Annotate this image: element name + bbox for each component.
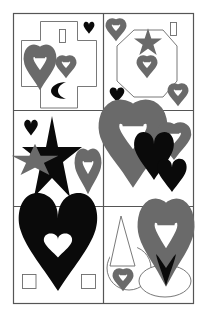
heart-outline-center-icon	[140, 58, 155, 73]
rectangle-outline	[60, 30, 66, 43]
heart-outline-bottom-right-icon	[171, 86, 186, 101]
heart-outline-large-icon	[28, 51, 51, 80]
square-outline-left	[23, 275, 37, 289]
panel-6	[107, 211, 191, 297]
square-outline-right	[82, 275, 96, 289]
heart-solid-icon	[84, 22, 95, 34]
heart-outline-large-icon	[146, 211, 186, 267]
star-outline-icon	[142, 37, 153, 48]
heart-outline-top-left-icon	[109, 21, 124, 36]
heart-outline-small-icon	[59, 58, 74, 73]
heart-outline-tall-icon	[79, 155, 98, 184]
heart-solid-icon	[24, 120, 38, 136]
star-outline-small-icon	[25, 154, 44, 167]
panel-4	[109, 112, 187, 192]
figure-canvas	[0, 0, 206, 317]
rectangle-outline	[171, 23, 177, 36]
heart-solid-small-icon	[157, 159, 186, 192]
panel-5	[19, 193, 98, 291]
heart-outline-small-icon	[116, 271, 131, 286]
panel-3	[22, 116, 97, 197]
panel-1	[22, 22, 97, 109]
panel-2	[109, 21, 186, 102]
